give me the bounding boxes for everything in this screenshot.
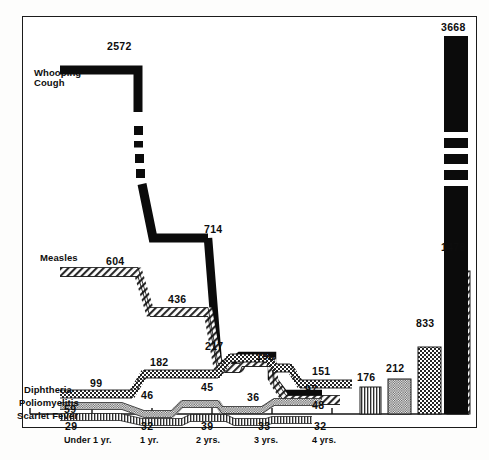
value-label-whooping-cough-under1: 2572 [107, 41, 132, 52]
value-label-diphtheria-2yr: 217 [205, 341, 223, 352]
axis-tick-1-yr: 1 yr. [140, 436, 159, 445]
value-label-scarlet-fever-3yr: 33 [258, 421, 270, 432]
value-label-scarlet-fever-under1: 29 [65, 421, 77, 432]
value-label-diphtheria-1yr: 182 [150, 357, 168, 368]
value-label-diphtheria-3yr: 198 [256, 351, 274, 362]
total-bar-whooping-cough-solid [444, 36, 468, 414]
value-label-poliomyelitis-1yr: 46 [141, 390, 153, 401]
value-label-diphtheria-4yr: 151 [312, 366, 330, 377]
value-label-whooping-cough-1yr: 714 [204, 224, 222, 235]
total-value-label-scarlet-fever: 176 [357, 372, 375, 383]
total-value-label-whooping-cough: 3668 [441, 22, 466, 33]
axis-tick-3-yrs: 3 yrs. [254, 436, 278, 445]
value-label-measles-1yr: 436 [168, 294, 186, 305]
axis-tick-under-1-yr: Under 1 yr. [64, 436, 112, 445]
value-label-measles-under1: 604 [106, 256, 124, 267]
series-label-whooping-cough: Whooping Cough [34, 68, 81, 89]
chart-figure: 2572 714 604 436 97 99 182 217 198 151 5… [0, 0, 489, 460]
value-label-poliomyelitis-3yr: 36 [247, 392, 259, 403]
value-label-poliomyelitis-4yr: 48 [312, 400, 324, 411]
total-value-label-diphtheria: 833 [416, 318, 434, 329]
value-label-scarlet-fever-4yr: 32 [314, 421, 326, 432]
series-label-scarlet-fever: Scarlet Fever [17, 411, 78, 421]
total-value-label-measles: 1478 [441, 242, 466, 253]
series-label-diphtheria: Diphtheria [24, 385, 72, 395]
value-label-scarlet-fever-2yr: 39 [201, 421, 213, 432]
series-label-whooping-cough-line2: Cough [34, 78, 81, 88]
axis-tick-4-yrs: 4 yrs. [312, 436, 336, 445]
value-label-diphtheria-under1: 99 [90, 378, 102, 389]
value-label-scarlet-fever-1yr: 32 [141, 421, 153, 432]
series-label-measles: Measles [40, 253, 78, 263]
axis-tick-2-yrs: 2 yrs. [196, 436, 220, 445]
total-value-label-poliomyelitis: 212 [386, 363, 404, 374]
value-label-measles-4yr: 97 [305, 384, 317, 395]
value-label-poliomyelitis-2yr: 45 [201, 382, 213, 393]
series-label-poliomyelitis: Poliomyelitis [19, 398, 79, 408]
